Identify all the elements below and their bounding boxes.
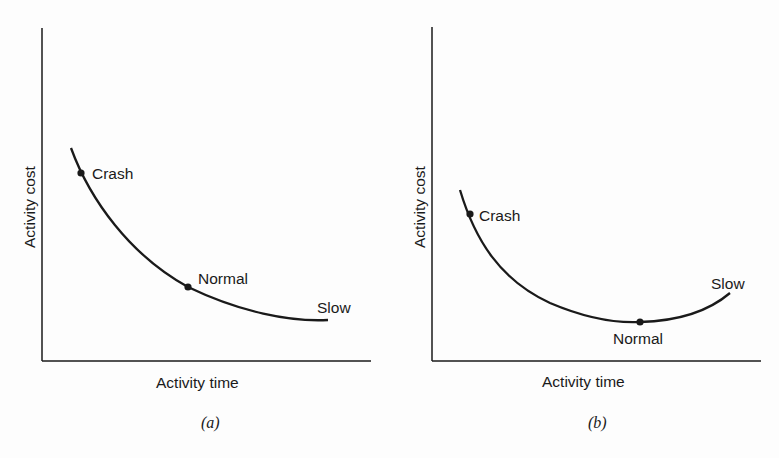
slow-label: Slow	[317, 299, 351, 316]
y-axis-label: Activity cost	[411, 165, 428, 248]
normal-point	[636, 318, 643, 325]
slow-label: Slow	[711, 275, 745, 292]
x-axis-label: Activity time	[156, 374, 239, 391]
crash-label: Crash	[479, 207, 520, 224]
panel-a: Crash Normal Slow Activity cost Activity…	[21, 28, 371, 432]
panel-caption: (a)	[201, 414, 220, 432]
panel-b: Crash Normal Slow Activity cost Activity…	[411, 27, 761, 432]
normal-label: Normal	[613, 330, 663, 347]
diagram-canvas: Crash Normal Slow Activity cost Activity…	[0, 0, 779, 458]
crash-point	[466, 210, 473, 217]
y-axis-label: Activity cost	[21, 165, 38, 248]
crash-label: Crash	[92, 165, 133, 182]
panel-caption: (b)	[588, 414, 607, 432]
crash-point	[77, 169, 84, 176]
normal-label: Normal	[198, 270, 248, 287]
normal-point	[184, 283, 191, 290]
x-axis-label: Activity time	[542, 373, 625, 390]
